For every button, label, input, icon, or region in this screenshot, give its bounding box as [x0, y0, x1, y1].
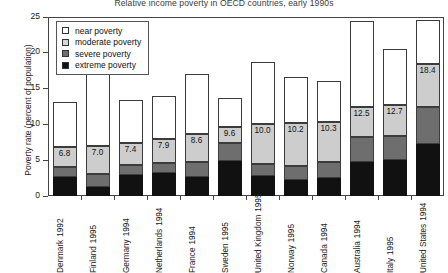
bar-united-kingdom[interactable]: 10.0 [251, 62, 275, 196]
bar-value-label: 18.4 [417, 66, 439, 76]
segment-near [383, 49, 407, 106]
survey-year: 1994 [353, 220, 362, 238]
survey-year: 1995 [386, 237, 395, 255]
y-tick-label: 25 [30, 11, 40, 21]
segment-near [86, 71, 110, 145]
x-label-denmark: Denmark1992 [56, 200, 68, 273]
bar-italy[interactable]: 12.7 [383, 49, 407, 196]
segment-severe [185, 162, 209, 177]
bar-value-label: 9.6 [219, 129, 241, 139]
legend-swatch-severe-poverty-icon [62, 50, 69, 57]
segment-extreme [185, 177, 209, 196]
country-name: Netherlands [155, 229, 164, 273]
segment-moderate: 10.0 [251, 124, 275, 163]
x-label-italy: Italy1995 [386, 200, 398, 273]
bar-netherlands[interactable]: 7.9 [152, 96, 176, 196]
country-name: Finland [89, 246, 98, 273]
segment-near [284, 77, 308, 123]
legend-label-moderate-poverty: moderate poverty [75, 37, 141, 47]
country-name: United States [419, 224, 428, 273]
segment-severe [152, 163, 176, 173]
country-name: Italy [386, 258, 395, 273]
segment-extreme [53, 177, 77, 196]
bar-value-label: 7.0 [87, 148, 109, 158]
y-tick-label: 10 [30, 118, 40, 128]
segment-extreme [284, 180, 308, 196]
bar-value-label: 10.0 [252, 126, 274, 136]
segment-near [152, 96, 176, 140]
y-tick-label: 20 [30, 46, 40, 56]
legend-label-severe-poverty: severe poverty [75, 49, 131, 59]
legend-label-near-poverty: near poverty [75, 26, 122, 36]
x-label-sweden: Sweden1995 [221, 200, 233, 273]
bar-norway[interactable]: 10.2 [284, 77, 308, 196]
poverty-chart: Relative income poverty in OECD countrie… [0, 0, 448, 273]
x-label-france: France1994 [188, 200, 200, 273]
bar-value-label: 10.2 [285, 125, 307, 135]
survey-year: 1995 [221, 222, 230, 240]
bar-value-label: 10.3 [318, 124, 340, 134]
bar-value-label: 12.7 [384, 107, 406, 117]
x-label-united-kingdom: United Kingdom1995 [254, 200, 266, 273]
bar-value-label: 6.8 [54, 149, 76, 159]
x-label-germany: Germany1994 [122, 200, 134, 273]
segment-extreme [383, 160, 407, 196]
segment-extreme [152, 173, 176, 196]
country-name: Sweden [221, 243, 230, 273]
country-name: Australia [353, 241, 362, 273]
x-axis-labels: Denmark1992Finland1995Germany1994Netherl… [48, 200, 444, 273]
segment-extreme [218, 161, 242, 196]
segment-near [251, 62, 275, 124]
survey-year: 1994 [419, 203, 428, 221]
bar-value-label: 7.9 [153, 141, 175, 151]
legend-swatch-extreme-poverty-icon [62, 62, 69, 69]
segment-moderate: 12.7 [383, 105, 407, 136]
x-label-norway: Norway1995 [287, 200, 299, 273]
segment-extreme [86, 187, 110, 196]
bar-sweden[interactable]: 9.6 [218, 98, 242, 196]
bar-value-label: 12.5 [351, 109, 373, 119]
legend-swatch-moderate-poverty-icon [62, 39, 69, 46]
segment-moderate: 12.5 [350, 107, 374, 137]
bar-france[interactable]: 8.6 [185, 74, 209, 196]
segment-severe [86, 174, 110, 187]
y-tick-label: 5 [35, 154, 40, 164]
bar-denmark[interactable]: 6.8 [53, 102, 77, 196]
survey-year: 1995 [254, 194, 263, 212]
legend-label-extreme-poverty: extreme poverty [75, 60, 136, 70]
segment-severe [284, 166, 308, 180]
x-label-canada: Canada1994 [320, 200, 332, 273]
segment-severe [53, 167, 77, 178]
legend-swatch-near-poverty-icon [62, 27, 69, 34]
segment-moderate: 8.6 [185, 134, 209, 162]
bar-value-label: 8.6 [186, 136, 208, 146]
segment-severe [119, 165, 143, 175]
survey-year: 1994 [188, 226, 197, 244]
segment-severe [383, 136, 407, 160]
segment-near [317, 81, 341, 122]
segment-near [350, 21, 374, 107]
bar-united-states[interactable]: 18.4 [416, 20, 440, 196]
segment-severe [251, 164, 275, 176]
segment-moderate: 18.4 [416, 64, 440, 106]
segment-extreme [119, 175, 143, 196]
country-name: Norway [287, 245, 296, 273]
segment-near [53, 102, 77, 148]
bar-canada[interactable]: 10.3 [317, 81, 341, 196]
segment-near [185, 74, 209, 134]
bar-germany[interactable]: 7.4 [119, 100, 143, 196]
bar-finland[interactable]: 7.0 [86, 71, 110, 196]
legend-item-near-poverty: near poverty [62, 25, 141, 37]
country-name: Denmark [56, 240, 65, 273]
segment-moderate: 10.3 [317, 122, 341, 161]
survey-year: 1994 [122, 218, 131, 236]
bar-australia[interactable]: 12.5 [350, 21, 374, 196]
segment-extreme [416, 144, 440, 196]
segment-moderate: 9.6 [218, 127, 242, 143]
segment-extreme [317, 178, 341, 196]
survey-year: 1995 [89, 225, 98, 243]
segment-severe [350, 137, 374, 162]
x-label-finland: Finland1995 [89, 200, 101, 273]
segment-moderate: 7.0 [86, 146, 110, 174]
y-tick-label: 0 [35, 190, 40, 200]
